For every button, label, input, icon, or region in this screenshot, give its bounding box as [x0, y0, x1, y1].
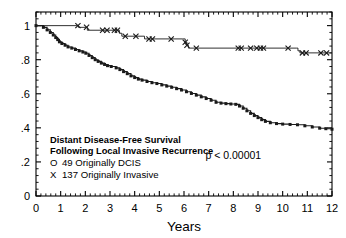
x-tick-label: 12 — [326, 202, 338, 214]
x-tick-label: 1 — [58, 202, 64, 214]
event-marker — [264, 120, 267, 123]
event-marker — [180, 89, 183, 92]
event-marker — [220, 102, 223, 105]
event-marker — [122, 70, 125, 73]
event-marker — [64, 44, 67, 47]
x-axis-title: Years — [167, 219, 201, 234]
event-marker — [165, 85, 168, 88]
event-marker — [126, 72, 129, 75]
p-value-text: p < 0.00001 — [205, 149, 261, 161]
x-tick-label: 0 — [33, 202, 39, 214]
event-marker — [97, 60, 100, 63]
event-marker — [133, 76, 136, 79]
y-tick-label: .2 — [21, 156, 30, 168]
event-marker — [106, 64, 109, 67]
legend-title-line2: Following Local Invasive Recurrence — [50, 146, 213, 156]
legend-symbol-invasive: X — [50, 169, 57, 180]
x-tick-label: 3 — [107, 202, 113, 214]
event-marker — [275, 122, 278, 125]
event-marker — [170, 86, 173, 89]
kaplan-meier-plot: 01234567891011120.2.4.6.81 Distant Disea… — [0, 0, 346, 238]
event-marker — [115, 66, 118, 69]
x-tick-label: 4 — [132, 202, 138, 214]
event-marker — [205, 97, 208, 100]
event-marker — [289, 123, 292, 126]
event-marker — [234, 103, 237, 106]
axes-layer: 01234567891011120.2.4.6.81 — [21, 12, 338, 214]
legend-title-line1: Distant Disease-Free Survival — [50, 135, 181, 145]
event-marker — [70, 47, 73, 50]
p-value-annotation: p < 0.00001 — [205, 149, 261, 161]
legend-block: Distant Disease-Free Survival Following … — [50, 135, 213, 180]
event-marker — [229, 103, 232, 106]
x-tick-label: 5 — [156, 202, 162, 214]
event-marker — [318, 127, 321, 130]
x-tick-label: 2 — [82, 202, 88, 214]
event-marker — [303, 124, 306, 127]
x-tick-label: 8 — [230, 202, 236, 214]
event-marker — [35, 24, 38, 27]
event-marker — [331, 128, 334, 131]
event-marker — [91, 56, 94, 59]
event-marker — [150, 81, 153, 84]
event-marker — [78, 49, 81, 52]
event-marker — [195, 94, 198, 97]
event-marker — [190, 92, 193, 95]
event-marker — [81, 51, 84, 54]
event-marker — [74, 48, 77, 51]
event-marker — [296, 123, 299, 126]
event-marker — [269, 121, 272, 124]
event-marker — [324, 127, 327, 130]
event-marker — [137, 78, 140, 81]
survival-chart-figure: 01234567891011120.2.4.6.81 Distant Disea… — [0, 0, 346, 238]
event-marker — [94, 58, 97, 61]
event-marker — [60, 42, 63, 45]
event-marker — [260, 118, 263, 121]
event-marker — [185, 90, 188, 93]
x-tick-label: 6 — [181, 202, 187, 214]
x-tick-label: 7 — [206, 202, 212, 214]
event-marker — [52, 34, 55, 37]
event-marker — [160, 83, 163, 86]
event-marker — [245, 109, 248, 112]
series-dcis — [35, 24, 334, 131]
y-tick-label: .4 — [21, 122, 30, 134]
x-tick-label: 9 — [255, 202, 261, 214]
event-marker — [67, 45, 70, 48]
event-marker — [110, 65, 113, 68]
event-marker — [281, 123, 284, 126]
event-marker — [238, 105, 241, 108]
event-marker — [146, 80, 149, 83]
event-marker — [141, 79, 144, 82]
event-marker — [118, 68, 121, 71]
y-tick-label: .6 — [21, 88, 30, 100]
event-marker — [242, 107, 245, 110]
event-marker — [200, 95, 203, 98]
event-marker — [155, 82, 158, 85]
event-marker — [311, 126, 314, 129]
y-tick-label: .8 — [21, 54, 30, 66]
series-layer — [35, 23, 334, 131]
event-marker — [129, 74, 132, 77]
event-marker — [88, 54, 91, 57]
event-marker — [84, 52, 87, 55]
x-tick-label: 11 — [302, 202, 313, 214]
event-marker — [175, 87, 178, 90]
event-marker — [224, 102, 227, 105]
event-marker — [253, 114, 256, 117]
event-marker — [46, 28, 49, 31]
event-marker — [42, 26, 45, 29]
y-tick-label: 0 — [24, 190, 30, 202]
legend-label-invasive: 137 Originally Invasive — [62, 169, 159, 180]
y-tick-label: 1 — [24, 20, 30, 32]
event-marker — [210, 99, 213, 102]
event-marker — [249, 112, 252, 115]
event-marker — [257, 116, 260, 119]
event-marker — [103, 63, 106, 66]
legend-symbol-dcis: O — [50, 157, 57, 168]
event-marker — [215, 101, 218, 104]
event-marker — [49, 31, 52, 34]
event-marker — [100, 62, 103, 65]
x-tick-label: 10 — [277, 202, 289, 214]
legend-label-dcis: 49 Originally DCIS — [62, 157, 141, 168]
